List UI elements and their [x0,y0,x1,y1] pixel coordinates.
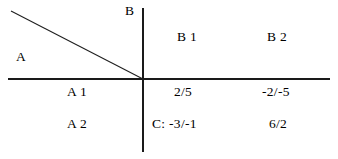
row-header-a2: A 2 [67,117,87,131]
column-header-b1: B 1 [177,30,197,44]
diagram-canvas: B A B 1 B 2 A 1 A 2 2/5 -2/-5 C: -3/-1 6… [0,0,338,159]
payoff-cell-a1-b1: 2/5 [174,85,192,99]
row-header-a1: A 1 [67,85,87,99]
payoff-cell-a1-b2: -2/-5 [262,85,290,99]
column-header-b2: B 2 [267,30,287,44]
payoff-cell-a2-b1: C: -3/-1 [152,117,197,131]
vertical-axis [142,8,144,152]
vertical-axis-label: B [125,4,134,18]
horizontal-axis-label: A [16,50,26,64]
horizontal-axis [8,78,330,80]
payoff-cell-a2-b2: 6/2 [269,117,287,131]
